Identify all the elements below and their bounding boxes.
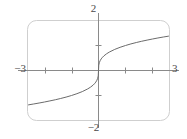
y-axis-max-label: 2: [0, 3, 187, 14]
graph-figure: 2 −2 −3 3: [0, 0, 187, 139]
x-axis-max-label: 3: [172, 63, 186, 74]
y-axis-min-label: −2: [0, 122, 187, 133]
x-axis-min-label: −3: [4, 63, 26, 74]
plot-area: [0, 0, 187, 139]
